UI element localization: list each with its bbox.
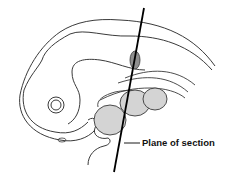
plane-of-section-label: Plane of section [142, 137, 215, 148]
organ-lobe-3 [143, 88, 167, 110]
plane-of-section-line [114, 8, 144, 172]
eye-inner-icon [51, 100, 61, 110]
diagram-canvas: Plane of section [0, 0, 238, 182]
embryo-diagram [0, 0, 238, 182]
eye-outer-icon [48, 97, 64, 113]
